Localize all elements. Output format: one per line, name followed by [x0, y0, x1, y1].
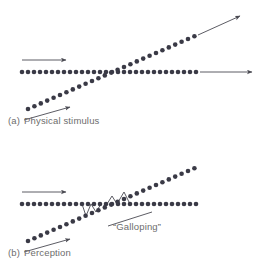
data-point [45, 98, 50, 103]
data-point [86, 70, 91, 75]
data-point [80, 202, 85, 207]
caption-tag-a: (a) [8, 115, 20, 126]
data-point [64, 90, 69, 95]
data-point [96, 76, 101, 81]
data-point [44, 202, 49, 207]
data-point [122, 197, 127, 202]
data-point [26, 107, 31, 112]
data-point [103, 73, 108, 78]
data-point [20, 202, 25, 207]
data-point [188, 202, 193, 207]
data-point [182, 202, 187, 207]
data-point [38, 202, 43, 207]
data-point [45, 230, 50, 235]
data-point [134, 70, 139, 75]
data-point [71, 87, 76, 92]
data-point [186, 169, 191, 174]
data-point [83, 82, 88, 87]
data-point [38, 70, 43, 75]
data-point [26, 70, 31, 75]
data-point [179, 172, 184, 177]
figure-root: (a)Physical stimulus “Galloping” (b)Perc… [0, 0, 264, 265]
data-point [115, 68, 120, 73]
data-point [62, 202, 67, 207]
data-point [71, 219, 76, 224]
data-point [135, 191, 140, 196]
data-point [26, 202, 31, 207]
data-point [26, 239, 31, 244]
data-point [154, 51, 159, 56]
data-point [176, 202, 181, 207]
data-point [192, 34, 197, 39]
caption-tag-b: (b) [8, 247, 20, 258]
data-point [147, 54, 152, 59]
data-point [141, 188, 146, 193]
data-point [32, 70, 37, 75]
data-point [58, 225, 63, 230]
data-point [192, 166, 197, 171]
data-point [77, 216, 82, 221]
data-point [96, 208, 101, 213]
data-point [135, 59, 140, 64]
data-point [68, 202, 73, 207]
data-point [80, 70, 85, 75]
data-point [141, 56, 146, 61]
data-point [194, 202, 199, 207]
data-point [51, 228, 56, 233]
data-point [74, 202, 79, 207]
data-point [50, 202, 55, 207]
data-point [98, 70, 103, 75]
data-point [128, 62, 133, 67]
data-point [176, 70, 181, 75]
data-point [64, 222, 69, 227]
data-point [154, 183, 159, 188]
data-point [164, 202, 169, 207]
data-point [50, 70, 55, 75]
data-point [170, 70, 175, 75]
data-point [134, 202, 139, 207]
data-point [188, 70, 193, 75]
data-point [32, 202, 37, 207]
data-point [140, 70, 145, 75]
data-point [39, 233, 44, 238]
data-point [179, 40, 184, 45]
data-point [32, 104, 37, 109]
data-point [152, 202, 157, 207]
data-point [146, 70, 151, 75]
caption-text-a: Physical stimulus [24, 115, 99, 126]
data-point [160, 48, 165, 53]
data-point [128, 194, 133, 199]
data-point [62, 70, 67, 75]
data-point [167, 177, 172, 182]
data-point [92, 70, 97, 75]
data-point [90, 79, 95, 84]
caption-text-b: Perception [24, 247, 71, 258]
data-point [173, 42, 178, 47]
data-point [44, 70, 49, 75]
galloping-annotation-label: “Galloping” [113, 221, 161, 232]
data-point [92, 202, 97, 207]
data-point [51, 96, 56, 101]
panel-perception: “Galloping” (b)Perception [0, 132, 264, 265]
data-point [160, 180, 165, 185]
caption-physical-stimulus: (a)Physical stimulus [8, 115, 99, 126]
data-point [68, 70, 73, 75]
data-point [122, 65, 127, 70]
data-point [167, 45, 172, 50]
data-point [194, 70, 199, 75]
data-point [158, 202, 163, 207]
data-point [90, 211, 95, 216]
data-point [56, 202, 61, 207]
physical-stimulus-plot [0, 0, 264, 133]
data-point [140, 202, 145, 207]
data-point [115, 200, 120, 205]
data-point [32, 236, 37, 241]
data-point [77, 84, 82, 89]
data-point [147, 186, 152, 191]
data-point [146, 202, 151, 207]
data-point [86, 202, 91, 207]
panel-physical-stimulus: (a)Physical stimulus [0, 0, 264, 133]
data-point [39, 101, 44, 106]
data-point [122, 70, 127, 75]
data-point [103, 205, 108, 210]
